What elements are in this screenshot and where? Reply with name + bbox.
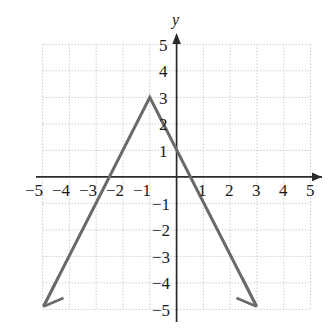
x-tick-label-1: 1 [198, 182, 207, 199]
y-tick-label-4: 4 [159, 63, 168, 80]
x-tick-label-4: 4 [279, 182, 288, 199]
y-tick-label--3: −3 [152, 249, 170, 266]
y-tick-label--2: −2 [152, 222, 170, 239]
y-tick-label--4: −4 [152, 275, 170, 292]
y-tick-label-1: 1 [159, 143, 168, 160]
y-tick-label-5: 5 [159, 37, 168, 54]
x-tick-label-5: 5 [306, 182, 315, 199]
x-tick-label--1: −1 [133, 182, 151, 199]
curve-right-arrow-icon [237, 278, 257, 307]
x-axis [36, 173, 322, 182]
x-tick-label-3: 3 [252, 182, 261, 199]
x-tick-label-2: 2 [225, 182, 234, 199]
x-tick-label--4: −4 [52, 182, 70, 199]
x-tick-label--3: −3 [79, 182, 97, 199]
y-axis-arrow-icon [172, 33, 181, 44]
graph-figure: y −5 −4 −3 −2 −1 1 2 3 4 5 5 4 3 2 1 −1 … [0, 0, 336, 330]
y-tick-label--1: −1 [152, 196, 170, 213]
y-tick-label--5: −5 [152, 302, 170, 319]
y-tick-label-3: 3 [159, 90, 168, 107]
curve-left-arrow-icon [44, 278, 64, 307]
x-tick-label--5: −5 [25, 182, 43, 199]
x-axis-arrow-icon [312, 173, 322, 182]
y-axis-label: y [172, 12, 179, 28]
y-tick-label-2: 2 [159, 116, 168, 133]
x-tick-label--2: −2 [106, 182, 124, 199]
